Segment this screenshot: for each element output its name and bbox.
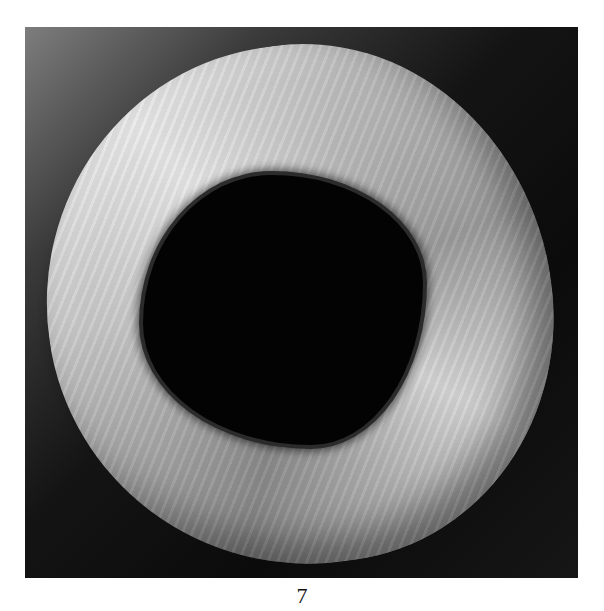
figure-number: 7 [0, 583, 604, 609]
micrograph [25, 27, 578, 578]
central-opening [143, 175, 423, 445]
